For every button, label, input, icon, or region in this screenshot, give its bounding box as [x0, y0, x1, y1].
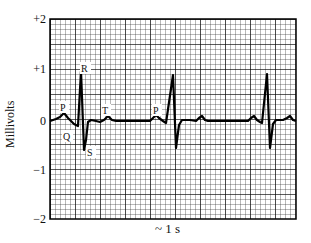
label-s-wave: S — [87, 147, 93, 158]
label-q-wave: Q — [63, 131, 71, 142]
label-r-wave: R — [81, 63, 88, 74]
label-p-wave-1: P — [60, 102, 66, 113]
ecg-chart: P Q R S T P — [0, 0, 311, 243]
grid-paper — [50, 19, 296, 219]
label-t-wave: T — [102, 105, 108, 116]
label-p-wave-2: P — [153, 105, 159, 116]
